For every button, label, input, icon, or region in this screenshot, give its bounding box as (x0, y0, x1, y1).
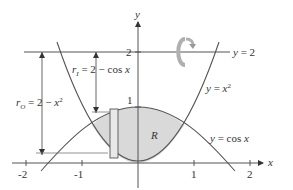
x-tick-2: 2 (247, 168, 253, 180)
region-label: R (150, 129, 158, 141)
x-tick-minus-1: -1 (74, 168, 83, 180)
inner-radius-label: rI = 2 − cos x (72, 63, 130, 78)
parabola-label: y = x2 (205, 82, 232, 94)
outer-radius-label: rO = 2 − x2 (16, 96, 63, 111)
x-tick-1: 1 (191, 168, 197, 180)
y-tick-2: 2 (126, 46, 132, 58)
x-axis-label: x (267, 156, 273, 168)
diagram: y x -2 -1 1 2 1 2 y = 2 y = x2 y = cos x… (0, 0, 293, 190)
cosine-label: y = cos x (209, 132, 249, 144)
y-tick-1: 1 (127, 94, 133, 106)
y-axis-label: y (134, 8, 140, 20)
washer-strip (110, 109, 118, 158)
line-label: y = 2 (232, 46, 255, 58)
x-tick-minus-2: -2 (18, 168, 27, 180)
